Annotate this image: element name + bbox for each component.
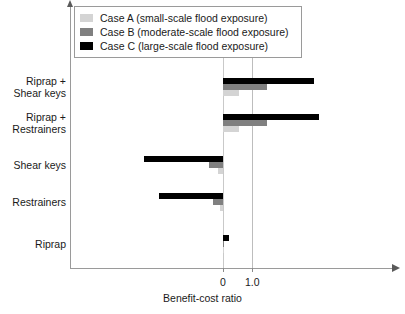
bar-case-a-group-4 (223, 247, 224, 253)
x-tick-1 (252, 268, 253, 272)
legend-label-case-a: Case A (small-scale flood exposure) (100, 12, 268, 24)
legend-label-case-c: Case C (large-scale flood exposure) (100, 40, 268, 52)
x-axis-line (70, 268, 395, 269)
x-tick-0 (223, 268, 224, 272)
x-axis-title: Benefit-cost ratio (0, 292, 405, 304)
x-tick-label-1: 1.0 (232, 276, 272, 288)
category-label-4: Riprap (0, 238, 66, 251)
bar-case-a-group-2 (218, 168, 223, 174)
bar-case-a-group-0 (223, 90, 239, 96)
category-label-1: Riprap + Restrainers (0, 111, 66, 136)
benefit-cost-ratio-chart: Case A (small-scale flood exposure) Case… (0, 0, 405, 314)
category-label-3: Restrainers (0, 196, 66, 209)
legend-swatch-case-b (80, 28, 93, 36)
category-axis-labels: Riprap + Shear keysRiprap + RestrainersS… (0, 6, 66, 268)
category-label-2: Shear keys (0, 159, 66, 172)
y-axis-arrow-icon (67, 0, 73, 7)
legend-swatch-case-a (80, 14, 93, 22)
y-axis-line (70, 6, 71, 268)
legend-swatch-case-c (80, 42, 93, 50)
bar-case-a-group-3 (220, 205, 223, 211)
legend-label-case-b: Case B (moderate-scale flood exposure) (100, 26, 289, 38)
chart-legend: Case A (small-scale flood exposure) Case… (74, 6, 302, 58)
bar-case-a-group-1 (223, 126, 239, 132)
legend-item-case-b: Case B (moderate-scale flood exposure) (80, 25, 295, 39)
legend-item-case-a: Case A (small-scale flood exposure) (80, 11, 295, 25)
legend-item-case-c: Case C (large-scale flood exposure) (80, 39, 295, 53)
x-axis-arrow-icon (392, 264, 400, 272)
category-label-0: Riprap + Shear keys (0, 75, 66, 100)
